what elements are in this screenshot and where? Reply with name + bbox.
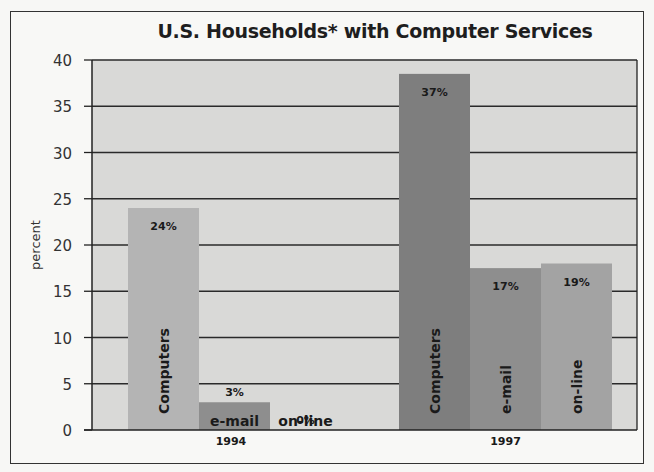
category-label-1994-e-mail: e-mail — [210, 413, 259, 429]
y-axis-label: percent — [28, 220, 43, 270]
category-label-1997-e-mail: e-mail — [498, 365, 514, 414]
category-label-1997-computers: Computers — [427, 328, 443, 414]
bar-chart: 0510152025303540 percent 24%Computers3%e… — [0, 0, 654, 472]
y-tick-label: 5 — [62, 376, 72, 394]
y-tick-label: 30 — [53, 145, 72, 163]
y-tick-label: 40 — [53, 52, 72, 70]
y-tick-label: 20 — [53, 237, 72, 255]
y-tick-label: 25 — [53, 191, 72, 209]
y-tick-label: 15 — [53, 283, 72, 301]
value-label-1997-computers: 37% — [421, 86, 447, 99]
x-group-label-1997: 1997 — [490, 435, 521, 448]
x-group-label-1994: 1994 — [216, 435, 247, 448]
y-tick-label: 35 — [53, 98, 72, 116]
value-label-1994-computers: 24% — [150, 220, 176, 233]
y-tick-labels: 0510152025303540 — [53, 52, 72, 440]
value-label-1997-on-line: 19% — [563, 276, 589, 289]
category-label-1994-on-line: on-line — [278, 413, 332, 429]
y-tick-label: 10 — [53, 330, 72, 348]
value-label-1997-e-mail: 17% — [492, 280, 518, 293]
y-tick-label: 0 — [62, 422, 72, 440]
category-label-1994-computers: Computers — [156, 328, 172, 414]
value-label-1994-e-mail: 3% — [225, 386, 244, 399]
category-label-1997-on-line: on-line — [569, 360, 585, 414]
